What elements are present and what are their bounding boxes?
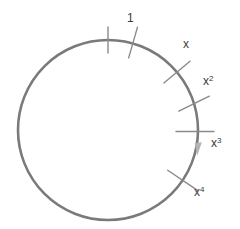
- circle-diagram-svg: 1xx2x3x4: [0, 0, 240, 229]
- tick-x2: [179, 96, 210, 111]
- tick-one-label: 1: [127, 11, 134, 25]
- tick-x-label: x: [183, 37, 189, 51]
- tick-x3-exponent: 3: [217, 136, 222, 145]
- main-circle: [18, 40, 198, 220]
- tick-marks-group: [108, 27, 214, 190]
- tick-x3-label: x3: [211, 136, 222, 150]
- tick-x2-exponent: 2: [209, 74, 214, 83]
- tick-labels-group: 1xx2x3x4: [127, 11, 222, 199]
- circle-diagram-canvas: 1xx2x3x4: [0, 0, 240, 229]
- tick-x2-label: x2: [203, 74, 214, 88]
- tick-x4-exponent: 4: [200, 185, 205, 194]
- tick-x4-label: x4: [194, 185, 205, 199]
